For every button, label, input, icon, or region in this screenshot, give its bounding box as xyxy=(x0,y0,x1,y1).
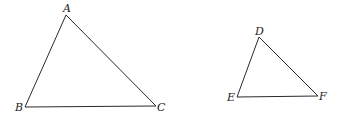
vertex-label-f: F xyxy=(318,90,327,103)
vertex-label-e: E xyxy=(226,91,235,104)
diagram-canvas: A B C D E F xyxy=(0,0,339,114)
vertex-label-c: C xyxy=(157,101,166,114)
triangle-abc: A B C xyxy=(14,2,166,114)
triangle-abc-outline xyxy=(25,15,156,107)
vertex-label-a: A xyxy=(62,2,71,15)
triangle-def-outline xyxy=(237,37,318,97)
triangle-def: D E F xyxy=(226,25,327,104)
vertex-label-d: D xyxy=(254,25,264,38)
vertex-label-b: B xyxy=(14,101,23,114)
